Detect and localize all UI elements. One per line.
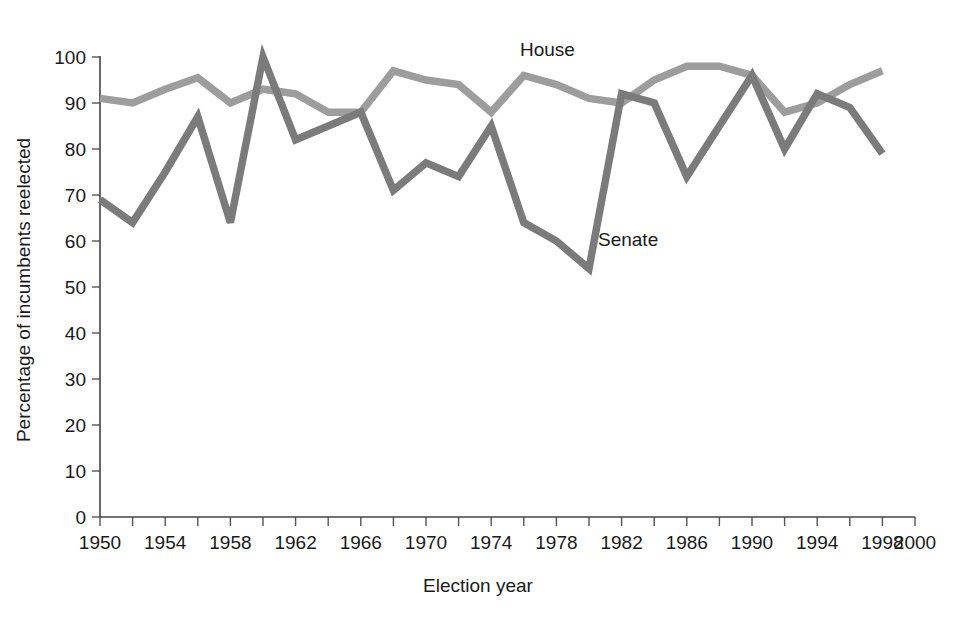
- y-tick-label: 0: [75, 507, 86, 528]
- y-axis-title: Percentage of incumbents reelected: [13, 138, 34, 442]
- x-tick-label: 1962: [274, 532, 316, 553]
- x-tick-label: 1978: [535, 532, 577, 553]
- y-axis-tick-marks: [92, 57, 100, 517]
- x-tick-label: 1986: [666, 532, 708, 553]
- y-tick-label: 10: [65, 461, 86, 482]
- x-tick-label: 1990: [731, 532, 773, 553]
- y-tick-label: 70: [65, 185, 86, 206]
- series-label-house: House: [520, 39, 575, 60]
- x-tick-label: 1994: [796, 532, 839, 553]
- chart-canvas: 0102030405060708090100 19501954195819621…: [0, 0, 966, 619]
- x-tick-label: 1966: [340, 532, 382, 553]
- x-tick-label: 1950: [79, 532, 121, 553]
- x-tick-label: 1958: [209, 532, 251, 553]
- y-tick-label: 50: [65, 277, 86, 298]
- y-tick-label: 80: [65, 139, 86, 160]
- x-tick-label: 1970: [405, 532, 447, 553]
- x-axis-tick-labels: 1950195419581962196619701974197819821986…: [79, 532, 936, 553]
- y-tick-label: 30: [65, 369, 86, 390]
- y-tick-label: 20: [65, 415, 86, 436]
- y-tick-label: 100: [54, 47, 86, 68]
- x-tick-label: 1982: [600, 532, 642, 553]
- y-tick-label: 60: [65, 231, 86, 252]
- y-axis-tick-labels: 0102030405060708090100: [54, 47, 86, 528]
- x-tick-label: 1974: [470, 532, 513, 553]
- line-chart: 0102030405060708090100 19501954195819621…: [0, 0, 966, 619]
- x-axis-tick-marks: [100, 517, 915, 526]
- y-tick-label: 90: [65, 93, 86, 114]
- x-tick-label: 2000: [894, 532, 936, 553]
- series-label-senate: Senate: [598, 229, 658, 250]
- x-axis-title: Election year: [423, 575, 534, 596]
- y-tick-label: 40: [65, 323, 86, 344]
- x-tick-label: 1954: [144, 532, 187, 553]
